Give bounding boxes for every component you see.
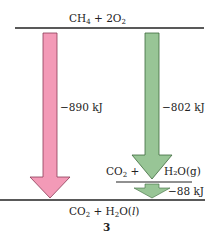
arrow-88-label: −88 kJ xyxy=(168,186,204,197)
top-state-label: CH4 + 2O2 xyxy=(69,13,126,26)
intermediate-state-left-label: CO2 + xyxy=(106,166,139,179)
arrow-890-icon xyxy=(30,33,70,198)
arrow-802-label: −802 kJ xyxy=(162,102,205,113)
figure-number: 3 xyxy=(103,222,110,233)
intermediate-state-right-label: H₂O(g) xyxy=(164,166,201,177)
arrow-88-icon xyxy=(134,184,170,198)
arrow-890-label: −890 kJ xyxy=(60,102,103,113)
bottom-state-label: CO2 + H2O(l) xyxy=(69,206,139,219)
